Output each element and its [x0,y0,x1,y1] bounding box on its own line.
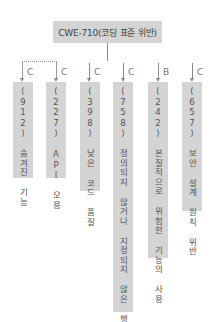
arrow-shaft-242 [158,63,159,78]
child-node-label: (657) 보안 설계 원칙 위반 [182,82,202,211]
bracket-connector [22,61,57,62]
edge-label-758: C [128,67,134,77]
arrow-shaft-398 [89,63,90,78]
child-node-912: (912) 숨겨진 기능 [13,82,33,178]
trunk-connector [107,43,108,61]
root-node-cwe-710: CWE-710(코딩 표준 위반) [53,21,162,43]
child-node-398: (398) 낮은 코드 품질 [80,82,100,191]
child-node-227: (227) API 오용 [46,82,66,178]
edge-label-657: C [197,67,203,77]
edge-label-242: B [163,67,169,77]
child-node-label: (912) 숨겨진 기능 [13,82,33,178]
child-node-label: (398) 낮은 코드 품질 [80,82,100,191]
child-node-label: (758) 정의되지 않거나 지정되지 않은 행위에 의존 [113,82,133,312]
bracket-right-drop [56,61,57,78]
bracket-left-drop [22,61,23,78]
edge-label-912: C [27,67,33,77]
arrow-shaft-657 [192,63,193,78]
child-node-657: (657) 보안 설계 원칙 위반 [182,82,202,211]
child-node-label: (242) 본질적으로 위험한 기능의 사용 [148,82,168,258]
child-node-758: (758) 정의되지 않거나 지정되지 않은 행위에 의존 [113,82,133,312]
root-node-label: CWE-710(코딩 표준 위반) [58,26,157,39]
child-node-242: (242) 본질적으로 위험한 기능의 사용 [148,82,168,258]
edge-label-227: C [61,67,67,77]
arrow-shaft-758 [123,63,124,78]
child-node-label: (227) API 오용 [46,82,66,178]
edge-label-398: C [94,67,100,77]
